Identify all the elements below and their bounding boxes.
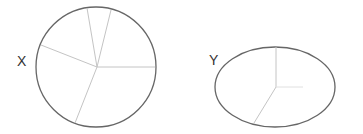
shape-x bbox=[36, 7, 156, 127]
circle-x-divider-bottom-left bbox=[75, 67, 97, 123]
shape-y-label: Y bbox=[209, 53, 218, 67]
shape-x-label: X bbox=[17, 54, 26, 68]
diagram-canvas bbox=[0, 0, 363, 134]
ellipse-y-outline bbox=[215, 47, 335, 127]
circle-x-divider-top bbox=[87, 8, 97, 67]
shape-y bbox=[215, 47, 335, 127]
ellipse-y-divider-bottom-left bbox=[254, 87, 276, 123]
circle-x-divider-top-right bbox=[97, 10, 111, 67]
circle-x-divider-left bbox=[41, 45, 97, 67]
